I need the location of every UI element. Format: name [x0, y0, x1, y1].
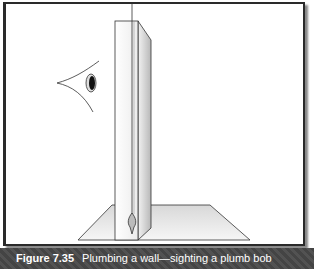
- floor: [78, 205, 250, 240]
- figure-title: Plumbing a wall—sighting a plumb bob: [82, 252, 272, 264]
- figure-caption: Figure 7.35Plumbing a wall—sighting a pl…: [16, 252, 272, 264]
- wall: [115, 21, 151, 240]
- eye-icon: [57, 61, 99, 112]
- figure-number: Figure 7.35: [16, 252, 74, 264]
- plumb-diagram: [0, 0, 314, 269]
